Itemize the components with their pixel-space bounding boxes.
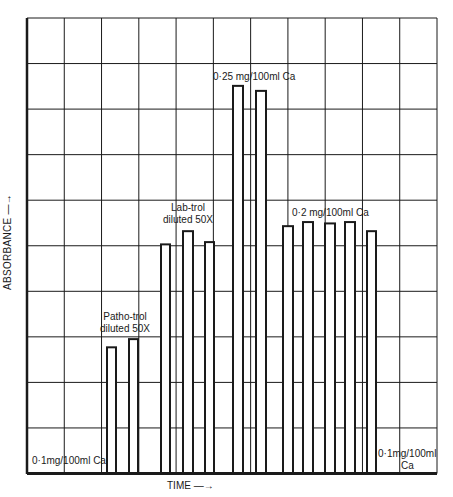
label-lab-line2: diluted 50X (158, 214, 218, 226)
label-lab-trol: Lab-trol diluted 50X (158, 202, 218, 226)
label-std-025: 0·25 mg/100ml Ca (213, 71, 295, 83)
y-axis-label: ABSORBANCE —→ (2, 194, 13, 290)
label-patho-line2: diluted 50X (95, 323, 155, 335)
label-std-02: 0·2 mg/100ml Ca (292, 207, 369, 219)
absorbance-peak-bar (303, 222, 313, 473)
label-baseline-left: 0·1mg/100ml Ca (32, 455, 106, 467)
absorbance-peak-bar (161, 244, 170, 473)
label-patho-line1: Patho-trol (95, 311, 155, 323)
absorbance-peak-bar (107, 347, 116, 473)
absorbance-peak-bar (367, 231, 376, 473)
label-patho-trol: Patho-trol diluted 50X (95, 311, 155, 335)
absorbance-peak-bar (205, 242, 214, 473)
absorbance-peak-bar (325, 223, 335, 473)
absorbance-peak-bar (233, 86, 243, 474)
absorbance-peak-bar (129, 339, 138, 473)
label-baseline-right: 0·1mg/100ml Ca (378, 448, 436, 472)
absorbance-peak-bar (183, 231, 193, 473)
label-lab-line1: Lab-trol (158, 202, 218, 214)
absorbance-peak-bar (256, 91, 266, 474)
bar-series (107, 86, 376, 474)
absorbance-peak-bar (345, 222, 355, 473)
x-axis-label: TIME —→ (167, 480, 214, 491)
label-baseline-right-line1: 0·1mg/100ml (378, 448, 436, 460)
label-baseline-right-line2: Ca (378, 460, 436, 472)
absorbance-peak-bar (283, 226, 293, 473)
